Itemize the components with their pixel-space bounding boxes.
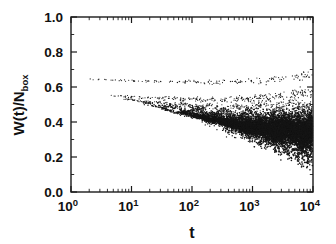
y-tick-label: 1.0 [44,10,63,25]
y-tick-label: 0.0 [44,185,63,200]
y-tick-label: 0.2 [44,150,63,165]
y-tick-label: 0.4 [44,115,63,130]
x-axis-title: t [189,224,195,241]
figure-scatter-plot: 0.00.20.40.60.81.0 100101102103104 W(t)/… [0,0,336,244]
plot-svg: 0.00.20.40.60.81.0 100101102103104 W(t)/… [0,0,336,244]
y-axis-title-main: W(t)/N [10,91,27,135]
y-tick-label: 0.6 [44,80,63,95]
y-tick-label: 0.8 [44,45,63,60]
y-axis-title-sub: box [19,74,30,92]
